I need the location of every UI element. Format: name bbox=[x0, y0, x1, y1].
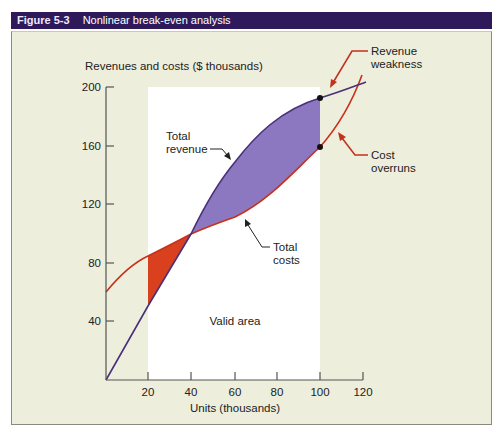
revenue-weakness-arrow-icon bbox=[334, 51, 368, 81]
break-even-chart: 200 160 120 80 40 20 40 60 80 100 120 Re… bbox=[0, 0, 498, 434]
y-ticks bbox=[106, 87, 114, 321]
cost-overruns-arrowhead-icon bbox=[338, 132, 346, 141]
xtick-40: 40 bbox=[185, 386, 198, 398]
xtick-120: 120 bbox=[353, 386, 372, 398]
total-costs-label-line1: Total bbox=[273, 241, 297, 253]
x-axis-title: Units (thousands) bbox=[190, 402, 280, 414]
revenue-weakness-arrowhead-icon bbox=[330, 79, 337, 88]
ytick-160: 160 bbox=[82, 140, 101, 152]
valid-area-label: Valid area bbox=[210, 315, 262, 327]
revenue-weakness-label-line2: weakness bbox=[370, 58, 422, 70]
ytick-200: 200 bbox=[82, 81, 101, 93]
xtick-100: 100 bbox=[310, 386, 329, 398]
total-revenue-label-line2: revenue bbox=[166, 143, 208, 155]
xtick-60: 60 bbox=[229, 386, 242, 398]
ytick-40: 40 bbox=[88, 315, 101, 327]
total-costs-label-line2: costs bbox=[273, 254, 300, 266]
ytick-80: 80 bbox=[88, 257, 101, 269]
cost-overruns-arrow-icon bbox=[342, 138, 368, 155]
revenue-weakness-label-line1: Revenue bbox=[371, 45, 417, 57]
xtick-80: 80 bbox=[271, 386, 284, 398]
cost-overruns-label-line2: overruns bbox=[371, 162, 416, 174]
cost-overruns-label-line1: Cost bbox=[371, 149, 395, 161]
cost-point-100 bbox=[317, 144, 323, 150]
xtick-20: 20 bbox=[142, 386, 155, 398]
revenue-point-100 bbox=[317, 95, 323, 101]
y-axis-title: Revenues and costs ($ thousands) bbox=[85, 60, 263, 72]
total-revenue-label-line1: Total bbox=[166, 130, 190, 142]
ytick-120: 120 bbox=[82, 198, 101, 210]
